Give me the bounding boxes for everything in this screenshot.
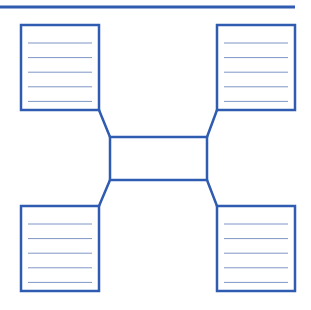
note-box-top-left[interactable]: [21, 25, 99, 110]
note-box-frame: [217, 206, 295, 291]
connector-top-left: [99, 110, 110, 137]
note-box-frame: [21, 25, 99, 110]
note-box-bottom-right[interactable]: [217, 206, 295, 291]
center-box[interactable]: [110, 137, 207, 180]
connector-top-right: [207, 110, 217, 137]
note-box-frame: [21, 206, 99, 291]
connector-bottom-right: [207, 180, 217, 206]
note-box-top-right[interactable]: [217, 25, 295, 110]
graphic-organizer-diagram: [0, 0, 311, 310]
connector-bottom-left: [99, 180, 110, 206]
note-box-bottom-left[interactable]: [21, 206, 99, 291]
note-box-frame: [217, 25, 295, 110]
